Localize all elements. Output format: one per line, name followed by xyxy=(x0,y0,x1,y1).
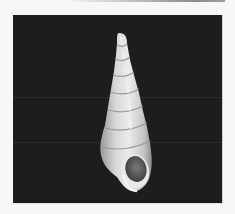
photo-panel xyxy=(13,15,223,204)
top-scan-edge xyxy=(70,0,225,2)
shell-illustration xyxy=(13,15,222,203)
